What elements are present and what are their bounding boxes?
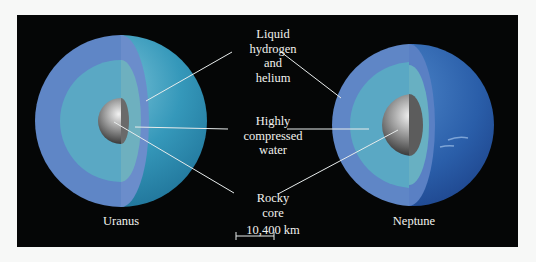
diagram-panel: Liquid hydrogen and helium Highly compre… bbox=[17, 15, 518, 247]
label-highly-compressed-water: Highly compressed water bbox=[228, 114, 318, 158]
planet-name-neptune: Neptune bbox=[374, 214, 454, 229]
uranus-sphere bbox=[35, 35, 207, 207]
label-rocky-core: Rocky core bbox=[239, 191, 307, 220]
label-liquid-hydrogen-helium: Liquid hydrogen and helium bbox=[245, 27, 301, 85]
neptune-sphere bbox=[332, 44, 494, 206]
scale-bar-label: 10,400 km bbox=[228, 223, 318, 238]
planet-name-uranus: Uranus bbox=[81, 214, 161, 229]
